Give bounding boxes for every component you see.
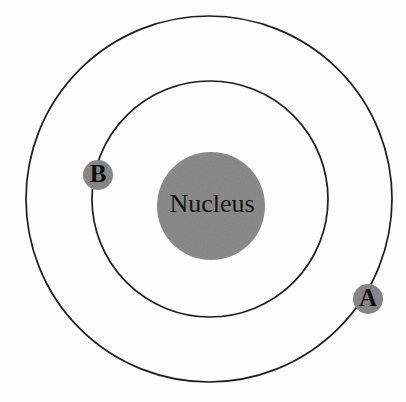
electron-b-label: B (90, 160, 107, 187)
atom-diagram: Nucleus B A (0, 0, 406, 402)
nucleus: Nucleus (157, 152, 265, 260)
electron-a-label: A (359, 284, 377, 311)
nucleus-label: Nucleus (169, 189, 254, 218)
atom-diagram-canvas: Nucleus B A (0, 0, 406, 402)
